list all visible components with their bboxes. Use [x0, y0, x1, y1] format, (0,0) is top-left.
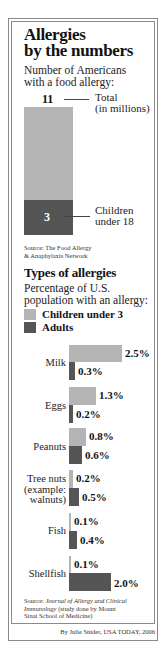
source2-rest: (study done by Mount	[57, 605, 116, 612]
section2-source: Source: Journal of Allergy and Clinical …	[24, 597, 152, 620]
category-peanuts: Peanuts	[14, 442, 66, 453]
source2-journal-cont: Immunology	[24, 605, 57, 612]
total-value: 11	[42, 92, 53, 107]
category-eggs: Eggs	[14, 401, 66, 412]
bar-shellfish-adults	[69, 573, 111, 591]
subtitle2-line-1: Percentage of U.S.	[24, 282, 148, 294]
subtitle2-line-2: population with an allergy:	[24, 294, 148, 306]
value-milk-children: 2.5%	[125, 348, 150, 359]
bar-fish-adults	[69, 531, 77, 549]
value-tree-nuts-children: 0.2%	[76, 473, 101, 484]
children-leader-line	[64, 216, 90, 217]
source2-line-3: Sinai School of Medicine)	[24, 612, 152, 620]
total-leader-line	[64, 99, 89, 100]
source2-journal: Journal of Allergy and Clinical	[45, 597, 126, 604]
children-label-line-2: under 18	[95, 216, 134, 227]
source2-line-1: Source: Journal of Allergy and Clinical	[24, 597, 152, 605]
section2-title: Types of allergies	[24, 265, 116, 281]
legend-label-children: Children under 3	[42, 309, 123, 320]
bar-tree-nuts-children	[69, 470, 73, 488]
value-tree-nuts-adults: 0.5%	[82, 492, 107, 503]
value-shellfish-adults: 2.0%	[114, 578, 139, 589]
bar-fish-children	[69, 513, 71, 531]
section1-subtitle: Number of Americans with a food allergy:	[24, 64, 126, 88]
value-shellfish-children: 0.1%	[74, 559, 99, 570]
source-line-1: Source: The Food Allergy	[24, 244, 91, 252]
section1-title: Allergies by the numbers	[24, 27, 133, 59]
value-fish-children: 0.1%	[74, 516, 99, 527]
legend-swatch-children	[24, 309, 36, 320]
credit-line: By Julie Snider, USA TODAY, 2006	[60, 628, 155, 635]
source2-line-2: Immunology (study done by Mount	[24, 605, 152, 613]
total-label-line-2: (in millions)	[95, 103, 150, 114]
value-eggs-adults: 0.2%	[76, 409, 101, 420]
category-tree-nuts: Tree nuts (example: walnuts)	[12, 474, 66, 506]
total-bar	[24, 107, 73, 200]
section1-source: Source: The Food Allergy & Anaphylaxis N…	[24, 244, 91, 259]
bar-milk-adults	[69, 362, 75, 380]
bar-peanuts-adults	[69, 446, 82, 464]
bar-eggs-adults	[69, 405, 73, 423]
legend-label-adults: Adults	[42, 322, 73, 333]
value-peanuts-children: 0.8%	[89, 431, 114, 442]
title-line-2: by the numbers	[24, 43, 133, 59]
bar-eggs-children	[69, 387, 96, 405]
bar-shellfish-children	[69, 556, 71, 573]
children-label: Children under 18	[95, 205, 134, 227]
source-line-2: & Anaphylaxis Network	[24, 252, 91, 260]
value-eggs-children: 1.3%	[99, 390, 124, 401]
category-fish: Fish	[14, 526, 66, 537]
category-shellfish: Shellfish	[10, 569, 66, 580]
legend-swatch-adults	[24, 322, 36, 333]
subtitle-line-2: with a food allergy:	[24, 76, 126, 88]
value-milk-adults: 0.3%	[78, 366, 103, 377]
category-tree-nuts-line-1: Tree nuts	[12, 474, 66, 485]
section2-subtitle: Percentage of U.S. population with an al…	[24, 282, 148, 306]
category-tree-nuts-line-3: walnuts)	[12, 495, 66, 506]
total-label: Total (in millions)	[95, 92, 150, 114]
bar-milk-children	[69, 345, 122, 362]
bar-peanuts-children	[69, 428, 86, 446]
children-value: 3	[44, 210, 50, 225]
bar-tree-nuts-adults	[69, 488, 79, 506]
value-fish-adults: 0.4%	[80, 535, 105, 546]
subtitle-line-1: Number of Americans	[24, 64, 126, 76]
category-milk: Milk	[14, 358, 66, 369]
value-peanuts-adults: 0.6%	[85, 450, 110, 461]
source2-prefix: Source:	[24, 597, 45, 604]
